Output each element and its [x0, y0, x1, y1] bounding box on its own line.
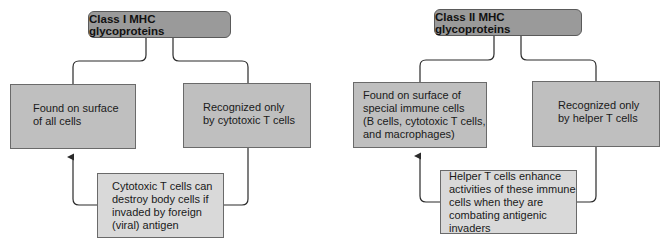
- class1-connector-right: [173, 38, 248, 83]
- class2-surface-box: Found on surface of special immune cells…: [353, 82, 487, 148]
- class1-action-box: Cytotoxic T cells can destroy body cells…: [97, 173, 224, 238]
- class1-recognition-box: Recognized only by cytotoxic T cells: [183, 83, 311, 148]
- class2-feedback-arrow: [420, 156, 440, 202]
- class1-connector-bottom-right: [224, 148, 248, 205]
- class1-title-text: Class I MHC glycoproteins: [89, 13, 230, 37]
- class2-action-text: Helper T cells enhance activities of the…: [449, 170, 576, 235]
- class2-connector-left: [420, 36, 494, 82]
- class1-title: Class I MHC glycoproteins: [88, 11, 231, 38]
- class1-surface-box: Found on surface of all cells: [10, 84, 136, 149]
- class2-recognition-box: Recognized only by helper T cells: [532, 81, 660, 147]
- class2-title: Class II MHC glycoproteins: [434, 9, 582, 36]
- class2-title-text: Class II MHC glycoproteins: [435, 11, 581, 35]
- class2-action-box: Helper T cells enhance activities of the…: [440, 170, 577, 234]
- class1-connector-left: [73, 38, 146, 84]
- class1-recognition-text: Recognized only by cytotoxic T cells: [203, 101, 295, 127]
- class2-surface-text: Found on surface of special immune cells…: [363, 89, 485, 141]
- class1-action-text: Cytotoxic T cells can destroy body cells…: [112, 180, 212, 232]
- class1-feedback-arrow: [73, 157, 97, 205]
- class2-connector-bottom-right: [577, 147, 596, 202]
- class2-connector-right: [521, 36, 596, 81]
- class2-recognition-text: Recognized only by helper T cells: [558, 99, 639, 125]
- class1-surface-text: Found on surface of all cells: [33, 102, 119, 128]
